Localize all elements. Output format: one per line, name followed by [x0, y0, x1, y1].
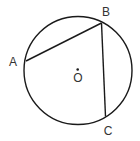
- label-O: O: [73, 71, 82, 85]
- label-B: B: [102, 5, 110, 19]
- geometry-diagram: A B C O: [0, 0, 140, 141]
- label-C: C: [104, 124, 113, 138]
- chord-BC: [102, 23, 106, 117]
- label-A: A: [9, 55, 17, 69]
- chord-AB: [26, 23, 102, 61]
